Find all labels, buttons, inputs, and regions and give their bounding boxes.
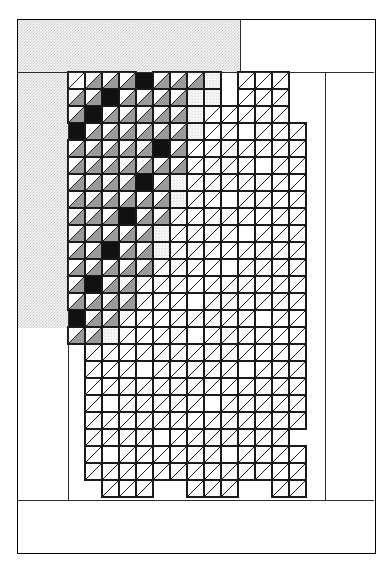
triangle-unit <box>187 106 204 123</box>
triangle-unit <box>85 72 102 89</box>
triangle-unit <box>153 157 170 174</box>
triangle-unit <box>238 208 255 225</box>
triangle-unit <box>119 361 136 378</box>
triangle-unit <box>136 174 153 191</box>
triangle-unit <box>170 412 187 429</box>
triangle-unit <box>255 225 272 242</box>
triangle-unit <box>153 242 170 259</box>
triangle-unit <box>187 174 204 191</box>
triangle-unit <box>153 395 170 412</box>
triangle-unit <box>272 174 289 191</box>
triangle-unit <box>221 225 238 242</box>
triangle-unit <box>85 361 102 378</box>
triangle-unit <box>85 140 102 157</box>
triangle-unit <box>221 344 238 361</box>
triangle-unit <box>255 191 272 208</box>
triangle-unit <box>119 174 136 191</box>
triangle-unit <box>289 242 306 259</box>
triangle-unit <box>289 310 306 327</box>
triangle-unit <box>187 446 204 463</box>
triangle-unit <box>272 361 289 378</box>
triangle-unit <box>170 310 187 327</box>
triangle-unit <box>102 344 119 361</box>
triangle-unit <box>238 378 255 395</box>
triangle-unit <box>272 412 289 429</box>
triangle-unit <box>119 463 136 480</box>
background-panel-rect-1 <box>18 72 68 328</box>
triangle-unit <box>153 344 170 361</box>
triangle-unit <box>102 429 119 446</box>
triangle-unit <box>221 140 238 157</box>
triangle-unit <box>221 361 238 378</box>
triangle-unit <box>136 395 153 412</box>
triangle-unit <box>221 157 238 174</box>
triangle-unit <box>102 89 119 106</box>
triangle-unit <box>238 242 255 259</box>
triangle-unit <box>68 259 85 276</box>
triangle-unit <box>136 259 153 276</box>
triangle-unit <box>255 72 272 89</box>
triangle-unit <box>272 446 289 463</box>
triangle-unit <box>102 106 119 123</box>
triangle-unit <box>136 344 153 361</box>
triangle-unit <box>272 480 289 497</box>
triangle-unit <box>204 106 221 123</box>
triangle-unit <box>289 174 306 191</box>
triangle-unit <box>289 157 306 174</box>
triangle-unit <box>255 106 272 123</box>
triangle-unit <box>238 412 255 429</box>
triangle-unit <box>153 72 170 89</box>
triangle-unit <box>170 327 187 344</box>
triangle-unit <box>255 259 272 276</box>
triangle-unit <box>238 429 255 446</box>
triangle-unit <box>102 259 119 276</box>
triangle-unit <box>255 463 272 480</box>
triangle-unit <box>272 225 289 242</box>
triangle-unit <box>204 327 221 344</box>
triangle-unit <box>68 208 85 225</box>
triangle-unit <box>238 89 255 106</box>
triangle-unit-grid <box>68 72 306 497</box>
triangle-unit <box>204 123 221 140</box>
triangle-unit <box>272 191 289 208</box>
triangle-unit <box>289 293 306 310</box>
triangle-unit <box>187 429 204 446</box>
triangle-unit <box>221 106 238 123</box>
triangle-unit <box>170 293 187 310</box>
triangle-unit <box>136 293 153 310</box>
triangle-unit <box>238 344 255 361</box>
triangle-unit <box>238 446 255 463</box>
triangle-unit <box>187 157 204 174</box>
triangle-unit <box>187 225 204 242</box>
triangle-unit <box>238 276 255 293</box>
triangle-unit <box>272 106 289 123</box>
triangle-unit <box>119 293 136 310</box>
triangle-unit <box>272 327 289 344</box>
triangle-unit <box>255 276 272 293</box>
triangle-unit <box>68 174 85 191</box>
triangle-unit <box>170 446 187 463</box>
triangle-unit <box>255 446 272 463</box>
triangle-unit <box>204 446 221 463</box>
triangle-unit <box>289 140 306 157</box>
triangle-unit <box>119 106 136 123</box>
triangle-unit <box>187 208 204 225</box>
triangle-unit <box>204 429 221 446</box>
triangle-unit <box>102 208 119 225</box>
triangle-unit <box>136 446 153 463</box>
triangle-unit <box>136 106 153 123</box>
triangle-unit <box>119 259 136 276</box>
triangle-unit <box>136 463 153 480</box>
triangle-unit <box>187 480 204 497</box>
triangle-unit <box>153 378 170 395</box>
triangle-unit <box>68 106 85 123</box>
triangle-unit <box>153 208 170 225</box>
triangle-unit <box>136 157 153 174</box>
triangle-unit <box>204 412 221 429</box>
triangle-unit <box>68 225 85 242</box>
triangle-unit <box>221 123 238 140</box>
triangle-unit <box>255 344 272 361</box>
triangle-unit <box>119 395 136 412</box>
triangle-unit <box>289 123 306 140</box>
triangle-unit <box>255 361 272 378</box>
